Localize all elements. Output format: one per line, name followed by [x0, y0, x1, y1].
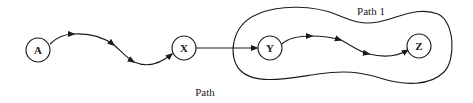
node-y-label: Y: [266, 42, 274, 54]
node-a-label: A: [34, 44, 42, 56]
path-caption: Path: [195, 86, 215, 98]
edge-a-to-x-segment-4: [134, 54, 172, 65]
node-a: A: [26, 38, 50, 62]
edge-a-to-x-segment-2: [74, 34, 114, 45]
node-z-label: Z: [415, 40, 422, 52]
edge-y-to-z-segment-1: [282, 36, 312, 44]
edge-a-to-x-segment-1: [50, 34, 74, 44]
node-x-label: X: [180, 42, 188, 54]
edge-a-to-x-segment-3: [114, 45, 134, 62]
path-diagram: A X Y Z Path 1 Path: [0, 0, 473, 103]
node-x: X: [172, 36, 196, 60]
node-y: Y: [258, 36, 282, 60]
node-z: Z: [407, 34, 431, 58]
edge-y-to-z-segment-4: [369, 50, 408, 56]
diagram-svg: A X Y Z Path 1 Path: [0, 0, 473, 103]
edge-y-to-z-segment-2: [312, 36, 341, 40]
edge-y-to-z-segment-3: [341, 40, 369, 54]
path1-caption: Path 1: [357, 5, 385, 17]
